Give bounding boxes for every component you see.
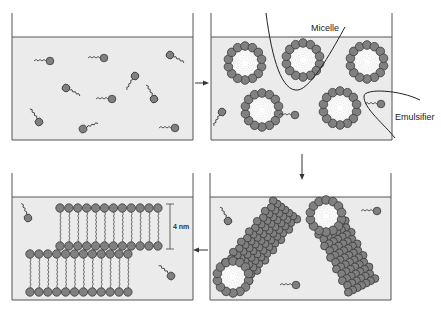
spherical-micelle: [213, 257, 253, 298]
spherical-micelle: [346, 41, 388, 84]
arrow-right: [195, 81, 209, 86]
spherical-micelle: [319, 87, 361, 130]
spherical-micelle: [282, 39, 324, 82]
micelle-label: Micelle: [311, 23, 339, 33]
bilayer-thickness-label: 4 nm: [173, 223, 189, 230]
panel-cylindrical-micelles: [210, 173, 391, 300]
diagram-canvas: [0, 0, 441, 309]
spherical-micelle: [224, 42, 266, 85]
spherical-micelle: [241, 89, 283, 132]
diagram: Micelle Emulsifier 4 nm: [0, 0, 441, 309]
arrow-down: [300, 154, 305, 180]
arrow-left: [193, 248, 208, 253]
emulsifier-label: Emulsifier: [395, 112, 435, 122]
spherical-micelle: [306, 196, 346, 237]
panel-bilayers: [12, 173, 193, 300]
panel-free-emulsifier: [12, 13, 193, 140]
